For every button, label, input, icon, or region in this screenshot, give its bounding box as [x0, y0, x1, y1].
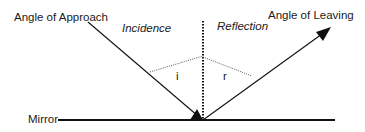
reflection-label: Reflection [217, 21, 268, 33]
incidence-label: Incidence [122, 23, 171, 35]
reflected-ray [203, 34, 322, 120]
leaving-label: Angle of Leaving [268, 10, 354, 22]
reflection-diagram: Angle of Approach Incidence Reflection A… [0, 0, 365, 132]
incident-ray [88, 22, 198, 116]
reflected-arrowhead-icon [316, 27, 331, 41]
approach-label: Angle of Approach [14, 12, 108, 24]
angle-r-label: r [223, 71, 227, 83]
angle-r-arc [203, 57, 252, 76]
angle-i-label: i [176, 71, 179, 83]
mirror-label: Mirror [28, 114, 58, 126]
